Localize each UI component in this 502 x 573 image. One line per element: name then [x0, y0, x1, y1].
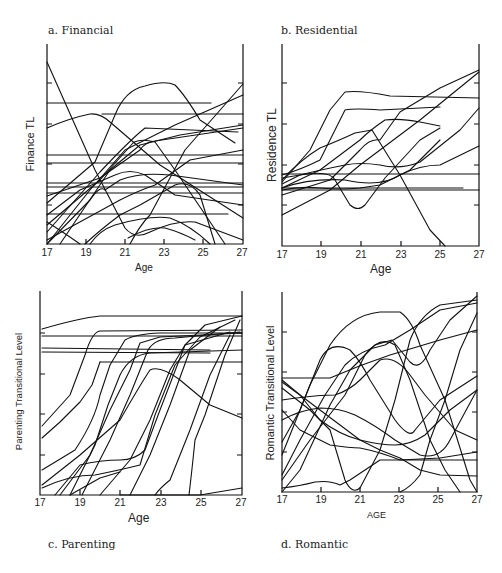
panel-b-axes — [282, 44, 479, 246]
chart-canvas — [0, 0, 502, 573]
panel-b-plot — [282, 44, 479, 246]
panel-c-plot — [40, 291, 242, 495]
panel-a-plot — [47, 44, 243, 244]
panel-d-plot — [282, 292, 477, 492]
